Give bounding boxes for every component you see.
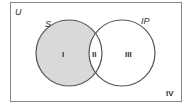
region-iv-label: IV [166,89,174,98]
region-iii-label: III [125,50,132,59]
region-i-label: I [62,50,64,59]
venn-diagram: U S IP I II III IV [0,0,190,109]
universe-label: U [15,7,22,17]
set-ip-label: IP [141,16,150,26]
region-ii-label: II [92,50,96,59]
set-s-label: S [45,19,51,29]
